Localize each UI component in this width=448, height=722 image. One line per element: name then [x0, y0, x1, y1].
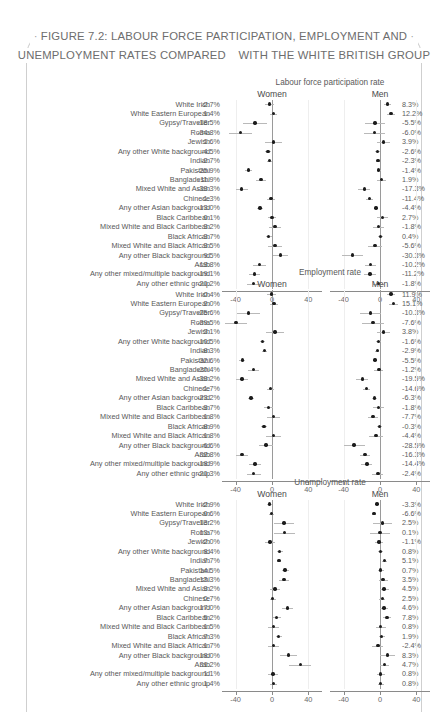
- data-point: [383, 559, 386, 562]
- zero-reference-line: [272, 356, 273, 365]
- gridline: [236, 157, 237, 166]
- gridline: [344, 450, 345, 459]
- gridline: [236, 538, 237, 547]
- data-point: [269, 197, 272, 200]
- zero-reference-line: [272, 500, 273, 509]
- women-value-label: 1.8%: [186, 431, 220, 440]
- zero-reference-line: [380, 509, 381, 518]
- gridline: [236, 366, 237, 375]
- women-value-label: -13.0%: [186, 203, 220, 212]
- women-value-label: -4.5%: [186, 147, 220, 156]
- plot-area-women: [222, 670, 322, 679]
- gridline: [344, 642, 345, 651]
- plot-area-women: [222, 356, 322, 365]
- gridline: [236, 594, 237, 603]
- chart-row: Black Caribbean0.1%2.7%: [0, 213, 448, 222]
- gridline: [236, 242, 237, 251]
- women-value-label: -20.3%: [186, 469, 220, 478]
- plot-area-women: [222, 576, 322, 585]
- data-point: [373, 358, 376, 361]
- women-value-label: -8.3%: [186, 346, 220, 355]
- gridline: [236, 500, 237, 509]
- data-point: [379, 235, 382, 238]
- gridline: [344, 670, 345, 679]
- gridline: [344, 660, 345, 669]
- chart-row: Pakistani14.5%0.7%: [0, 566, 448, 575]
- women-value-label: -10.5%: [186, 337, 220, 346]
- gridline: [236, 576, 237, 585]
- subplot-label-men: Men: [330, 89, 430, 99]
- data-point: [266, 150, 269, 153]
- axis-tick-label: 0: [270, 695, 274, 704]
- zero-reference-line: [272, 318, 273, 327]
- zero-reference-line: [272, 337, 273, 346]
- gridline: [308, 290, 309, 299]
- gridline: [236, 642, 237, 651]
- plot-area-women: [222, 538, 322, 547]
- women-value-label: 17.0%: [186, 603, 220, 612]
- chart-row: Mixed White and Black Caribbean3.2%-1.8%: [0, 223, 448, 232]
- plot-area-women: [222, 194, 322, 203]
- plot-area-women: [222, 384, 322, 393]
- chart-row: Any other mixed/multiple background1.1%0…: [0, 670, 448, 679]
- plot-area-women: [222, 251, 322, 260]
- gridline: [236, 509, 237, 518]
- gridline: [236, 557, 237, 566]
- subplot-label-women: Women: [222, 279, 322, 289]
- plot-area-women: [222, 100, 322, 109]
- chart-row: Mixed White and Black African1.7%-2.4%: [0, 642, 448, 651]
- data-point: [275, 616, 278, 619]
- gridline: [308, 176, 309, 185]
- zero-reference-line: [272, 232, 273, 241]
- gridline: [236, 547, 237, 556]
- gridline: [344, 384, 345, 393]
- gridline: [308, 623, 309, 632]
- gridline: [308, 356, 309, 365]
- chart-row: White Irish-2.9%-3.3%: [0, 500, 448, 509]
- gridline: [308, 232, 309, 241]
- plot-area-women: [222, 422, 322, 431]
- gridline: [236, 223, 237, 232]
- gridline: [236, 337, 237, 346]
- gridline: [344, 576, 345, 585]
- panel-rows: White Irish-2.9%-3.3%White Eastern Europ…: [0, 500, 448, 689]
- gridline: [308, 632, 309, 641]
- data-point: [252, 472, 255, 475]
- women-value-label: 1.4%: [186, 679, 220, 688]
- plot-area-women: [222, 394, 322, 403]
- data-point: [241, 358, 244, 361]
- gridline: [236, 585, 237, 594]
- chart-row: Black Caribbean-3.7%-1.8%: [0, 403, 448, 412]
- gridline: [344, 328, 345, 337]
- data-point: [381, 216, 384, 219]
- zero-reference-line: [380, 557, 381, 566]
- data-point: [264, 443, 267, 446]
- data-point: [369, 311, 372, 314]
- gridline: [308, 613, 309, 622]
- data-point: [351, 253, 354, 256]
- zero-reference-line: [380, 100, 381, 109]
- chart-row: Any other mixed/multiple background-18.9…: [0, 460, 448, 469]
- gridline: [308, 651, 309, 660]
- plot-area-women: [222, 679, 322, 688]
- data-point: [268, 102, 271, 105]
- plot-area-women: [222, 176, 322, 185]
- gridline: [236, 519, 237, 528]
- data-point: [247, 311, 250, 314]
- women-value-label: 13.7%: [186, 528, 220, 537]
- gridline: [344, 632, 345, 641]
- gridline: [344, 460, 345, 469]
- women-value-label: 7.3%: [186, 632, 220, 641]
- data-point: [273, 244, 276, 247]
- women-value-label: -34.8%: [186, 128, 220, 137]
- zero-reference-line: [380, 290, 381, 299]
- zero-reference-line: [272, 394, 273, 403]
- gridline: [344, 290, 345, 299]
- plot-area-women: [222, 519, 322, 528]
- women-value-label: -33.3%: [186, 184, 220, 193]
- women-value-label: -32.8%: [186, 450, 220, 459]
- zero-reference-line: [380, 356, 381, 365]
- data-point: [363, 453, 366, 456]
- chart-row: White Irish-2.7%8.3%: [0, 100, 448, 109]
- women-value-label: 13.3%: [186, 575, 220, 584]
